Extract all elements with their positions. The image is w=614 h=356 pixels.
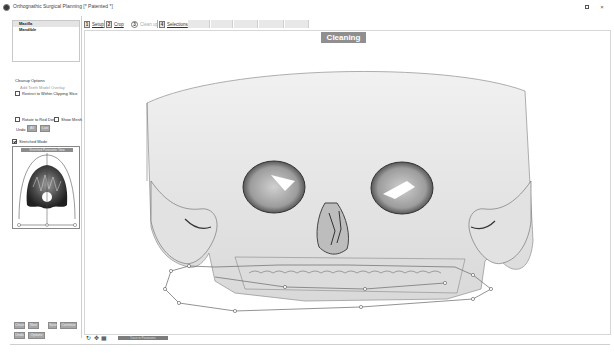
cleanup-options-header: Cleanup Options bbox=[15, 78, 45, 83]
panoramic-image bbox=[13, 147, 80, 229]
rotate-icon[interactable]: ↻ bbox=[84, 334, 92, 342]
app-icon bbox=[3, 4, 10, 11]
tab-label: Crop bbox=[114, 22, 124, 27]
pan-icon[interactable]: ✥ bbox=[92, 334, 100, 342]
panoramic-mini-view[interactable]: Stretched Panoramic View bbox=[12, 146, 80, 229]
tab-crop[interactable]: 2 Crop bbox=[106, 19, 124, 29]
tab-separator bbox=[157, 20, 158, 28]
viewport-toolbar: ↻ ✥ ▦ Trace in Panoramic bbox=[84, 334, 284, 342]
mini-view-header: Stretched Panoramic View bbox=[21, 148, 73, 152]
undo-last-button[interactable]: Last bbox=[40, 125, 50, 132]
mode-label: Cleaning bbox=[321, 32, 366, 43]
stretched-mode-checkbox[interactable]: Stretched Mode bbox=[12, 139, 47, 144]
title-bar: Orthognathic Surgical Planning [* Patent… bbox=[0, 0, 614, 16]
tab-label: Selections bbox=[167, 22, 188, 27]
checkbox-box[interactable] bbox=[15, 117, 20, 122]
trace-progress-bar: Trace in Panoramic bbox=[118, 336, 168, 340]
tab-placeholder bbox=[188, 20, 210, 28]
close-button[interactable]: × bbox=[598, 3, 606, 11]
undo-all-button[interactable]: All bbox=[27, 125, 37, 132]
tab-setup[interactable]: 1 Setup bbox=[84, 19, 104, 29]
tab-placeholder bbox=[234, 20, 258, 28]
save-button[interactable]: Save bbox=[48, 322, 57, 329]
checkbox-label: Rotate to Red Dot bbox=[22, 117, 54, 122]
checkbox-label: Show Mesh bbox=[61, 117, 82, 122]
checkbox-box[interactable] bbox=[12, 139, 17, 144]
undo-label: Undo bbox=[16, 127, 26, 132]
next-button[interactable]: Next bbox=[28, 322, 39, 329]
tab-placeholder bbox=[211, 20, 233, 28]
tab-label: Clean up bbox=[140, 22, 158, 27]
clean-button[interactable]: Clean bbox=[14, 322, 25, 329]
checkbox-box[interactable] bbox=[54, 117, 59, 122]
list-item-mandible[interactable]: Mandible bbox=[13, 27, 79, 33]
skull-render bbox=[85, 31, 611, 335]
options-button[interactable]: Options bbox=[28, 332, 45, 339]
tab-placeholder bbox=[285, 20, 309, 28]
restrict-clipping-checkbox[interactable]: Restrict to Within Clipping Slice bbox=[15, 91, 78, 96]
tab-cleanup[interactable]: 3 Clean up bbox=[131, 19, 158, 29]
tab-number: 4 bbox=[159, 21, 165, 28]
show-mesh-checkbox[interactable]: Show Mesh bbox=[54, 117, 82, 122]
status-divider bbox=[10, 344, 610, 345]
checkbox-box[interactable] bbox=[15, 91, 20, 96]
tab-label: Setup bbox=[92, 22, 104, 27]
tab-selections[interactable]: 4 Selections bbox=[159, 19, 188, 29]
grid-icon[interactable]: ▦ bbox=[100, 334, 108, 342]
workflow-tabs: 1 Setup 2 Crop 3 Clean up 4 Selections bbox=[82, 19, 614, 29]
left-panel: Maxilla Mandible Cleanup Options Add Tee… bbox=[0, 16, 82, 338]
restore-icon bbox=[585, 5, 589, 9]
checkbox-label: Stretched Mode bbox=[19, 139, 47, 144]
restore-button[interactable] bbox=[583, 3, 591, 11]
tab-number: 1 bbox=[84, 21, 90, 28]
tab-separator bbox=[104, 20, 105, 28]
model-list[interactable]: Maxilla Mandible bbox=[12, 20, 80, 62]
rotate-red-dot-checkbox[interactable]: Rotate to Red Dot bbox=[15, 117, 54, 122]
undo-button[interactable]: Undo bbox=[14, 332, 25, 339]
tab-number: 3 bbox=[131, 21, 138, 28]
checkbox-label: Restrict to Within Clipping Slice bbox=[22, 91, 78, 96]
continue-button[interactable]: Continue bbox=[60, 322, 77, 329]
window-title: Orthognathic Surgical Planning [* Patent… bbox=[13, 3, 113, 9]
tab-placeholder bbox=[259, 20, 284, 28]
tab-number: 2 bbox=[106, 21, 112, 28]
3d-viewport[interactable]: Cleaning bbox=[84, 30, 611, 335]
add-teeth-overlay-label: Add Teeth Model Overlay bbox=[20, 85, 65, 90]
